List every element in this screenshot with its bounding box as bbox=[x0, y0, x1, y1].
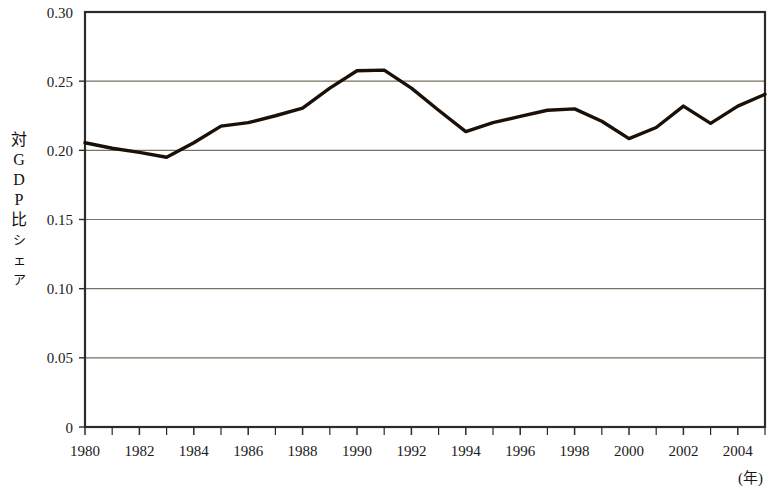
y-axis-label-char-3: P bbox=[4, 190, 34, 210]
x-axis-tick-label: 1982 bbox=[124, 443, 154, 459]
y-axis-tick-label: 0.25 bbox=[47, 74, 73, 90]
x-axis-tick-label: 1990 bbox=[342, 443, 372, 459]
y-axis-label-char-4: 比 bbox=[4, 210, 34, 230]
y-axis-tick-label: 0.20 bbox=[47, 143, 73, 159]
y-axis-label-char-6: ェ bbox=[4, 250, 34, 270]
y-axis-label-char-0: 対 bbox=[4, 130, 34, 150]
x-axis-tick-label: 1996 bbox=[505, 443, 536, 459]
x-axis-tick-label: 2004 bbox=[723, 443, 754, 459]
chart-figure: 対 G D P 比 シ ェ ア 0.300.250.200.150.100.05… bbox=[0, 0, 771, 491]
line-chart: 0.300.250.200.150.100.050 19801982198419… bbox=[0, 0, 771, 491]
y-axis-tick-label: 0.30 bbox=[47, 5, 73, 21]
y-axis-label-char-1: G bbox=[4, 150, 34, 170]
y-axis-tick-label: 0.10 bbox=[47, 281, 73, 297]
x-axis-tick-label: 1986 bbox=[233, 443, 264, 459]
y-axis-tick-labels: 0.300.250.200.150.100.050 bbox=[47, 5, 73, 436]
y-axis-label-char-2: D bbox=[4, 170, 34, 190]
y-axis-label: 対 G D P 比 シ ェ ア bbox=[4, 130, 34, 290]
x-axis-tick-label: 1980 bbox=[70, 443, 100, 459]
x-axis-unit-text: (年) bbox=[738, 470, 763, 487]
data-series-layer bbox=[85, 70, 765, 157]
x-axis-tick-label: 2000 bbox=[614, 443, 644, 459]
x-axis-tick-label: 2002 bbox=[668, 443, 698, 459]
data-line-0 bbox=[85, 70, 765, 157]
x-axis-tick-label: 1994 bbox=[451, 443, 482, 459]
y-axis-label-char-5: シ bbox=[4, 230, 34, 250]
y-axis-tick-label: 0.05 bbox=[47, 350, 73, 366]
x-axis-tick-labels: 1980198219841986198819901992199419961998… bbox=[70, 443, 753, 459]
x-axis-ticks bbox=[85, 427, 765, 435]
x-axis-tick-label: 1984 bbox=[179, 443, 210, 459]
y-axis-tick-label: 0.15 bbox=[47, 212, 73, 228]
x-axis-tick-label: 1998 bbox=[560, 443, 590, 459]
y-axis-tick-label: 0 bbox=[66, 420, 74, 436]
x-axis-tick-label: 1988 bbox=[288, 443, 318, 459]
y-axis-label-char-7: ア bbox=[4, 270, 34, 290]
x-axis-unit-label: (年) bbox=[738, 470, 763, 487]
x-axis-tick-label: 1992 bbox=[396, 443, 426, 459]
